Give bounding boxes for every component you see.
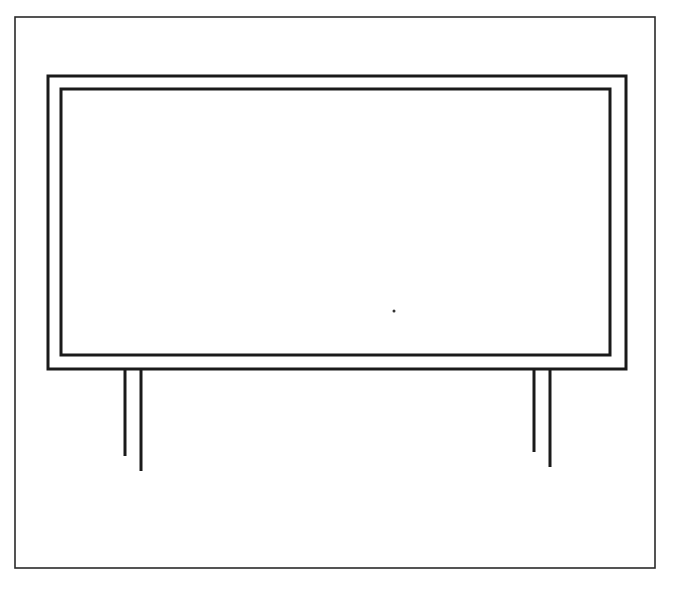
stray-dot <box>393 310 396 313</box>
billboard-diagram <box>0 0 680 589</box>
